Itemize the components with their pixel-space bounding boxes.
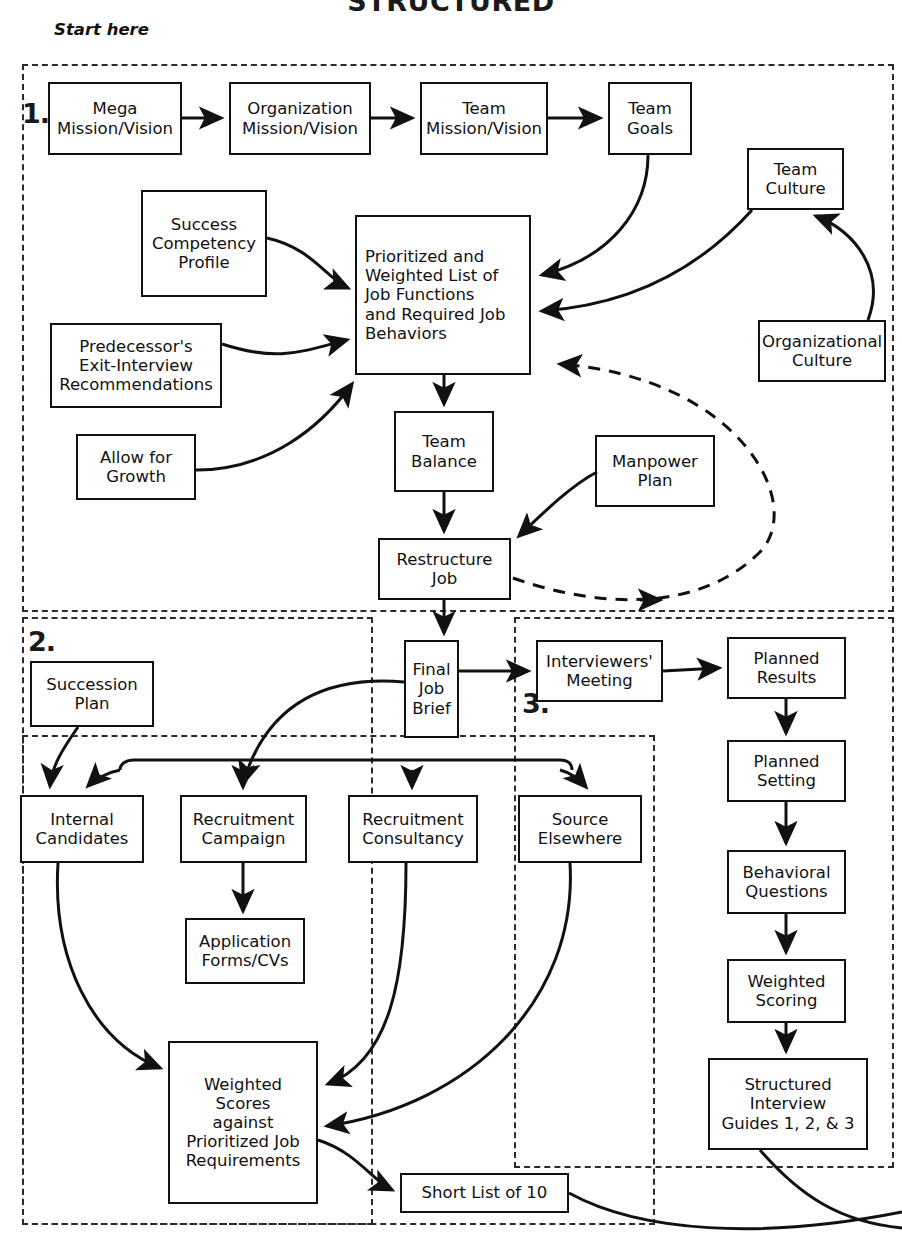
page-title: STRUCTURED xyxy=(0,0,902,17)
zone-2-number: 2. xyxy=(28,628,55,655)
node-mega-mission[interactable]: MegaMission/Vision xyxy=(48,82,182,155)
node-predecessor-exit[interactable]: Predecessor'sExit-InterviewRecommendatio… xyxy=(50,323,222,408)
node-source-elsewhere[interactable]: SourceElsewhere xyxy=(518,795,642,863)
node-label: FinalJobBrief xyxy=(412,660,451,717)
start-here-label: Start here xyxy=(54,20,149,39)
node-team-balance[interactable]: TeamBalance xyxy=(394,411,494,492)
node-label: TeamMission/Vision xyxy=(426,99,542,137)
node-manpower-plan[interactable]: ManpowerPlan xyxy=(595,435,715,507)
node-label: Predecessor'sExit-InterviewRecommendatio… xyxy=(59,337,213,394)
node-succession-plan[interactable]: SuccessionPlan xyxy=(30,661,154,727)
node-label: StructuredInterviewGuides 1, 2, & 3 xyxy=(722,1075,855,1132)
node-prioritized-list[interactable]: Prioritized andWeighted List ofJob Funct… xyxy=(355,215,531,375)
node-success-competency[interactable]: SuccessCompetencyProfile xyxy=(141,190,267,297)
node-short-list[interactable]: Short List of 10 xyxy=(400,1173,569,1213)
node-label: WeightedScoresagainstPrioritized JobRequ… xyxy=(186,1075,301,1171)
node-weighted-scores[interactable]: WeightedScoresagainstPrioritized JobRequ… xyxy=(168,1041,318,1204)
node-application-forms[interactable]: ApplicationForms/CVs xyxy=(185,918,305,984)
node-label: RecruitmentCampaign xyxy=(193,810,294,848)
node-label: Allow forGrowth xyxy=(100,448,172,486)
node-label: OrganizationMission/Vision xyxy=(242,99,358,137)
node-org-mission[interactable]: OrganizationMission/Vision xyxy=(229,82,371,155)
node-label: Short List of 10 xyxy=(422,1183,548,1202)
node-label: Interviewers'Meeting xyxy=(546,652,653,690)
node-label: TeamBalance xyxy=(411,432,477,470)
diagram-canvas: STRUCTURED 1. 2. 3. Start here MegaMissi… xyxy=(0,0,902,1244)
node-team-culture[interactable]: TeamCulture xyxy=(747,148,844,210)
node-label: ApplicationForms/CVs xyxy=(199,932,291,970)
node-restructure-job[interactable]: RestructureJob xyxy=(378,538,511,600)
node-label: BehavioralQuestions xyxy=(743,863,831,901)
node-label: ManpowerPlan xyxy=(612,452,698,490)
node-label: SuccessionPlan xyxy=(46,675,138,713)
node-recruitment-campaign[interactable]: RecruitmentCampaign xyxy=(180,795,307,863)
node-internal-candidates[interactable]: InternalCandidates xyxy=(20,795,144,863)
node-planned-setting[interactable]: PlannedSetting xyxy=(727,740,846,802)
node-label: PlannedSetting xyxy=(753,752,819,790)
zone-1-number: 1. xyxy=(22,100,49,127)
node-label: SourceElsewhere xyxy=(538,810,622,848)
node-behavioral-questions[interactable]: BehavioralQuestions xyxy=(727,850,846,914)
node-label: MegaMission/Vision xyxy=(57,99,173,137)
node-team-mission[interactable]: TeamMission/Vision xyxy=(420,82,548,155)
node-final-job-brief[interactable]: FinalJobBrief xyxy=(404,640,459,738)
node-interviewers-meeting[interactable]: Interviewers'Meeting xyxy=(536,640,663,702)
node-recruitment-consultancy[interactable]: RecruitmentConsultancy xyxy=(348,795,478,863)
node-label: TeamCulture xyxy=(765,160,825,198)
node-label: OrganizationalCulture xyxy=(762,332,882,370)
node-structured-interview[interactable]: StructuredInterviewGuides 1, 2, & 3 xyxy=(708,1058,868,1150)
node-label: TeamGoals xyxy=(627,99,673,137)
node-label: RecruitmentConsultancy xyxy=(362,810,464,848)
node-weighted-scoring[interactable]: WeightedScoring xyxy=(727,959,846,1023)
node-label: PlannedResults xyxy=(753,649,819,687)
node-planned-results[interactable]: PlannedResults xyxy=(727,637,846,699)
node-org-culture[interactable]: OrganizationalCulture xyxy=(758,320,886,382)
node-label: SuccessCompetencyProfile xyxy=(152,215,256,272)
node-label: RestructureJob xyxy=(397,550,493,588)
node-allow-growth[interactable]: Allow forGrowth xyxy=(76,434,196,500)
node-label: WeightedScoring xyxy=(747,972,825,1010)
node-label: InternalCandidates xyxy=(36,810,129,848)
node-team-goals[interactable]: TeamGoals xyxy=(608,82,692,155)
node-label: Prioritized andWeighted List ofJob Funct… xyxy=(365,247,505,343)
